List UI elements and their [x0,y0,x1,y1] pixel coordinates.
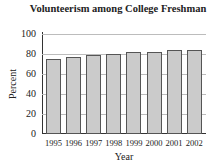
chart-title: Volunteerism among College Freshman [0,3,216,14]
x-tick-label: 1996 [64,138,84,148]
bar-2001 [167,50,182,134]
bar-1998 [106,54,121,134]
y-tick-label: 60 [6,69,36,79]
x-tick-label: 2000 [144,138,164,148]
bar-1995 [46,59,61,134]
x-tick-label: 1995 [44,138,64,148]
bar-1997 [86,55,101,134]
y-tick-label: 0 [6,129,36,139]
y-tick-label: 80 [6,49,36,59]
y-tick-label: 20 [6,109,36,119]
plot-area: 0204060801001995199619971998199920002001… [42,34,206,134]
x-tick-label: 1999 [124,138,144,148]
bar-1999 [126,52,141,134]
gridline [42,34,206,35]
bar-1996 [66,57,81,134]
y-tick-label: 40 [6,89,36,99]
x-tick-label: 2001 [164,138,184,148]
y-axis-line [42,32,43,134]
x-axis-label: Year [42,151,206,162]
bar-2000 [147,52,162,134]
bar-2002 [187,50,202,134]
x-tick-label: 1998 [104,138,124,148]
x-tick-label: 1997 [84,138,104,148]
y-tick-label: 100 [6,29,36,39]
x-tick-label: 2002 [184,138,204,148]
